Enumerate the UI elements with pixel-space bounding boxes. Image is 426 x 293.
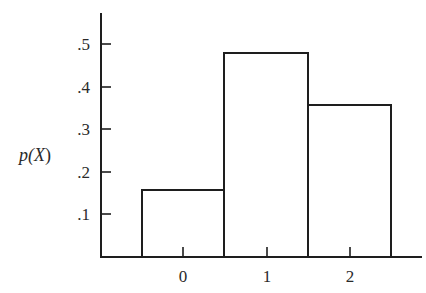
y-tick-label: .3 [77,120,90,139]
y-axis-title-close: ) [45,145,51,166]
x-tick-label: 2 [346,267,355,286]
bar-x-1 [224,53,308,257]
x-ticks [183,247,350,257]
y-tick-label: .1 [77,205,90,224]
y-tick-label: .2 [77,163,90,182]
x-tick-label: 0 [179,267,188,286]
y-tick-label: .5 [77,35,90,54]
y-tick-label: .4 [77,78,90,97]
bars [142,53,391,257]
bar-x-2 [308,105,391,257]
y-axis-title: p(X) [17,145,51,166]
probability-histogram: .1 .2 .3 .4 .5 0 1 2 p(X) [0,0,426,293]
y-ticks [101,44,111,214]
x-tick-label: 1 [263,267,272,286]
y-axis-title-p: p( [17,145,35,166]
bar-x-0 [142,190,224,257]
